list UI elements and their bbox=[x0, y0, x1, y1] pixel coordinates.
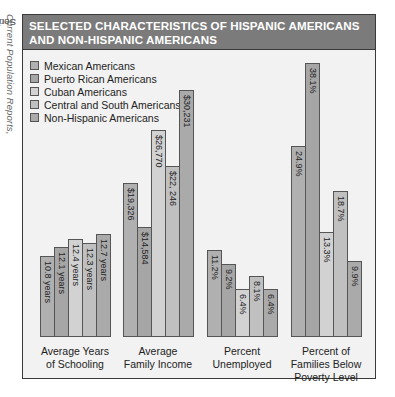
category-label-line: Poverty Level bbox=[277, 371, 375, 384]
bar-value-label: 12.3 years bbox=[85, 248, 95, 290]
bar: 38.1% bbox=[305, 63, 320, 337]
legend-label: Central and South Americans bbox=[44, 99, 181, 111]
bar-value-label: 6.4% bbox=[266, 294, 276, 315]
bar-value-label: $30,231 bbox=[182, 95, 192, 128]
bar-value-label: 9.2% bbox=[224, 269, 234, 290]
bar-value-label: $26,770 bbox=[154, 135, 164, 168]
bar: $14,584 bbox=[137, 227, 152, 337]
bar-value-label: 10.8 years bbox=[43, 261, 53, 303]
bar-value-label: 12.4 years bbox=[71, 244, 81, 286]
bar: 12.4 years bbox=[68, 239, 83, 337]
bar: $22, 246 bbox=[165, 166, 180, 337]
bar: 13.3% bbox=[319, 232, 334, 337]
bar: 12.1 years bbox=[54, 247, 69, 337]
bar: 8.1% bbox=[249, 276, 264, 337]
bar-value-label: 24.9% bbox=[294, 151, 304, 177]
bar: 6.4% bbox=[235, 289, 250, 337]
bar: $26,770 bbox=[151, 130, 166, 337]
source-details: Series p-20, No. 416, 1987 bbox=[0, 17, 16, 28]
legend-label: Mexican Americans bbox=[44, 60, 135, 72]
bar-value-label: $14,584 bbox=[140, 232, 150, 265]
bar-value-label: $19,326 bbox=[126, 188, 136, 221]
legend-item: Puerto Rican Americans bbox=[30, 72, 181, 85]
legend-swatch bbox=[30, 100, 39, 109]
legend-item: Mexican Americans bbox=[30, 59, 181, 72]
bar-value-label: 6.4% bbox=[238, 294, 248, 315]
legend-swatch bbox=[30, 61, 39, 70]
bar: 12.3 years bbox=[82, 243, 97, 337]
bar-value-label: 8.1% bbox=[252, 281, 262, 302]
title-line-1: SELECTED CHARACTERISTICS OF HISPANIC AME… bbox=[29, 19, 375, 33]
legend-swatch bbox=[30, 87, 39, 96]
bar-value-label: 13.3% bbox=[322, 237, 332, 263]
category-label: Percent ofFamilies BelowPoverty Level bbox=[277, 345, 375, 384]
source-title: Current Population Reports, bbox=[5, 14, 16, 134]
category-label-line: Percent of bbox=[277, 345, 375, 358]
chart-title: SELECTED CHARACTERISTICS OF HISPANIC AME… bbox=[23, 15, 375, 50]
bar: $30,231 bbox=[179, 90, 194, 337]
bar-value-label: 9.9% bbox=[350, 266, 360, 287]
bar-value-label: 11.2% bbox=[210, 255, 220, 280]
bar-value-label: 12.1 years bbox=[57, 252, 67, 294]
bar: 12.7 years bbox=[96, 234, 111, 337]
legend-swatch bbox=[30, 74, 39, 83]
legend-swatch bbox=[30, 113, 39, 122]
legend: Mexican AmericansPuerto Rican AmericansC… bbox=[30, 59, 181, 124]
legend-item: Cuban Americans bbox=[30, 85, 181, 98]
bar: 6.4% bbox=[263, 289, 278, 337]
bar-value-label: $22, 246 bbox=[168, 171, 178, 206]
category-label-line: Families Below bbox=[277, 358, 375, 371]
chart-frame: SELECTED CHARACTERISTICS OF HISPANIC AME… bbox=[22, 14, 376, 379]
bar: 24.9% bbox=[291, 146, 306, 337]
title-line-2: AND NON-HISPANIC AMERICANS bbox=[29, 33, 375, 47]
bar: 18.7% bbox=[333, 191, 348, 337]
bar: 9.2% bbox=[221, 264, 236, 337]
legend-label: Puerto Rican Americans bbox=[44, 73, 157, 85]
bar-value-label: 12.7 years bbox=[99, 239, 109, 281]
bar: $19,326 bbox=[123, 183, 138, 337]
bar-value-label: 18.7% bbox=[336, 196, 346, 222]
bar: 11.2% bbox=[207, 250, 222, 337]
bar: 10.8 years bbox=[40, 256, 55, 337]
legend-label: Non-Hispanic Americans bbox=[44, 112, 159, 124]
source-note: Source: Current Population Reports, Seri… bbox=[2, 14, 16, 374]
legend-item: Central and South Americans bbox=[30, 98, 181, 111]
legend-label: Cuban Americans bbox=[44, 86, 127, 98]
legend-item: Non-Hispanic Americans bbox=[30, 111, 181, 124]
bar: 9.9% bbox=[347, 261, 362, 337]
bar-value-label: 38.1% bbox=[308, 68, 318, 94]
